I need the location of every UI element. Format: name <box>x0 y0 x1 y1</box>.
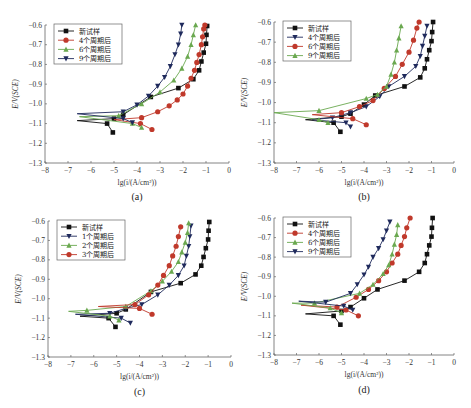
x-tick-label: −3 <box>383 166 391 175</box>
y-tick-label: −1.0 <box>257 98 271 107</box>
data-point <box>424 24 429 29</box>
legend: 新试样1个周期后2个周期后3个周期后 <box>57 220 125 260</box>
data-point <box>193 272 198 277</box>
data-point <box>168 64 173 69</box>
y-tick-label: −0.8 <box>257 58 271 67</box>
x-tick-label: −5 <box>338 166 346 175</box>
data-point <box>182 263 187 268</box>
data-point <box>393 74 398 79</box>
data-point <box>179 23 184 28</box>
data-point <box>402 234 407 239</box>
data-point <box>402 278 407 283</box>
x-tick-label: −2 <box>405 166 413 175</box>
y-tick-label: −1.2 <box>257 331 271 340</box>
x-tick-label: −4 <box>360 166 368 175</box>
data-point <box>384 228 389 233</box>
data-point <box>188 76 193 81</box>
data-point <box>113 325 118 330</box>
data-point <box>197 68 202 73</box>
legend-label: 新试样 <box>308 220 329 229</box>
data-point <box>420 44 425 49</box>
data-point <box>172 52 177 57</box>
data-point <box>161 273 166 278</box>
data-point <box>387 220 392 225</box>
chart-panel-a: −8−7−6−5−4−3−2−10−0.6−0.7−0.8−0.9−1.0−1.… <box>11 21 231 204</box>
x-tick-label: −3 <box>156 166 164 175</box>
data-point <box>204 41 209 46</box>
data-point <box>399 23 404 28</box>
legend-marker <box>64 29 69 34</box>
y-tick-label: −1.3 <box>31 353 45 362</box>
data-point <box>425 57 430 62</box>
data-point <box>417 19 422 24</box>
y-tick-label: −1.2 <box>28 139 42 148</box>
y-tick-label: −1.1 <box>257 311 271 320</box>
data-point <box>394 232 399 237</box>
y-tick-label: −0.6 <box>31 217 45 226</box>
data-point <box>348 124 353 129</box>
data-point <box>417 270 422 275</box>
data-point <box>155 109 160 114</box>
y-tick-label: −1.3 <box>257 351 271 360</box>
data-point <box>331 314 336 319</box>
data-point <box>138 121 143 126</box>
x-tick-label: −1 <box>428 166 436 175</box>
data-point <box>429 39 434 44</box>
x-tick-label: −5 <box>338 358 346 367</box>
y-tick-label: −1.1 <box>257 118 271 127</box>
x-axis-label: lg(i/(A/cm²)) <box>345 370 384 379</box>
data-point <box>338 129 343 134</box>
chart-panel-d: −8−7−6−5−4−3−2−10−0.6−0.7−0.8−0.9−1.0−1.… <box>240 214 456 397</box>
y-tick-label: −1.3 <box>257 159 271 168</box>
x-axis-label: lg(i/(A/cm²)) <box>118 178 157 187</box>
x-tick-label: 0 <box>452 166 456 175</box>
data-point <box>137 306 142 311</box>
y-tick-label: −1.3 <box>28 159 42 168</box>
legend: 新试样4个周期后6个周期后9个周期后 <box>283 21 351 61</box>
y-tick-label: −0.9 <box>31 275 45 284</box>
data-point <box>418 75 423 80</box>
data-point <box>207 220 212 225</box>
y-tick-label: −0.7 <box>257 233 271 242</box>
data-point <box>178 281 183 286</box>
data-point <box>399 243 404 248</box>
x-tick-label: −8 <box>270 358 278 367</box>
data-point <box>199 42 204 47</box>
data-point <box>396 35 401 40</box>
data-point <box>105 121 110 126</box>
x-tick-label: −8 <box>44 360 52 369</box>
legend-label: 1个周期后 <box>82 232 114 241</box>
legend-marker <box>292 44 297 49</box>
data-point <box>356 313 361 318</box>
data-point <box>132 302 137 307</box>
y-tick-label: −0.8 <box>257 253 271 262</box>
legend-marker <box>292 231 297 236</box>
data-point <box>357 291 362 296</box>
data-point <box>364 122 369 127</box>
data-point <box>422 261 427 266</box>
x-tick-label: −6 <box>315 166 323 175</box>
data-point <box>188 42 193 47</box>
data-point <box>199 59 204 64</box>
x-tick-label: −6 <box>90 360 98 369</box>
data-point <box>146 292 151 297</box>
x-tick-label: 0 <box>452 358 456 367</box>
data-point <box>176 42 181 47</box>
data-point <box>184 254 189 259</box>
data-point <box>430 225 435 230</box>
data-point <box>404 225 409 230</box>
y-axis-label: E/V(SCE) <box>240 77 249 108</box>
y-tick-label: −0.7 <box>31 236 45 245</box>
data-point <box>408 215 413 220</box>
data-point <box>418 54 423 59</box>
data-point <box>187 234 192 239</box>
data-point <box>183 240 188 245</box>
data-point <box>395 252 400 257</box>
y-tick-label: −1.1 <box>28 119 42 128</box>
legend-marker <box>63 38 68 43</box>
y-axis-label: E/V(SCE) <box>240 271 249 302</box>
legend: 新试样4个周期后6个周期后9个周期后 <box>54 24 122 64</box>
data-point <box>175 97 180 102</box>
x-tick-label: −7 <box>293 166 301 175</box>
x-tick-label: −8 <box>270 166 278 175</box>
